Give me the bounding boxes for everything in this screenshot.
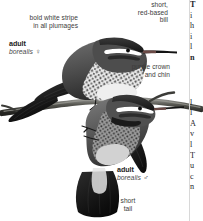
annotation-bill: short, red-based bill [110, 1, 168, 24]
text-line: i [190, 32, 203, 43]
hummingbird-illustration [0, 0, 203, 221]
bill-male [154, 106, 184, 110]
text-column-gap [190, 64, 203, 98]
text-line: n [190, 53, 203, 64]
caption-adult-female: adult borealis ♀ [9, 40, 41, 55]
text-line: v [190, 129, 203, 140]
annotation-short-tail: short tail [108, 197, 148, 212]
text-line: l [190, 98, 203, 109]
female-sex-symbol-icon: ♀ [35, 48, 41, 56]
male-name-row: borealis ♂ [117, 174, 149, 182]
male-sex-symbol-icon: ♂ [143, 174, 149, 182]
bill-female [143, 50, 177, 53]
text-line: T [190, 151, 203, 162]
body-text-column: T i h i l n l l A v l T u c n [190, 0, 203, 221]
annotation-purple-crown: purple crown and chin [106, 63, 170, 78]
female-name-row: borealis ♀ [9, 48, 41, 56]
text-line: n [190, 182, 203, 193]
text-line: l [190, 140, 203, 151]
text-line: i [190, 11, 203, 22]
text-line: A [190, 119, 203, 130]
annotation-white-stripe: bold white stripe in all plumages [4, 14, 78, 29]
field-guide-plate: bold white stripe in all plumages short,… [0, 0, 203, 221]
text-line: u [190, 161, 203, 172]
text-line: c [190, 172, 203, 183]
text-line: h [190, 21, 203, 32]
male-subspecies-label: borealis [117, 174, 141, 182]
text-line: l [190, 42, 203, 53]
caption-adult-male: adult borealis ♂ [117, 166, 149, 181]
female-subspecies-label: borealis [9, 48, 33, 56]
text-line: T [190, 0, 203, 11]
text-line: l [190, 108, 203, 119]
